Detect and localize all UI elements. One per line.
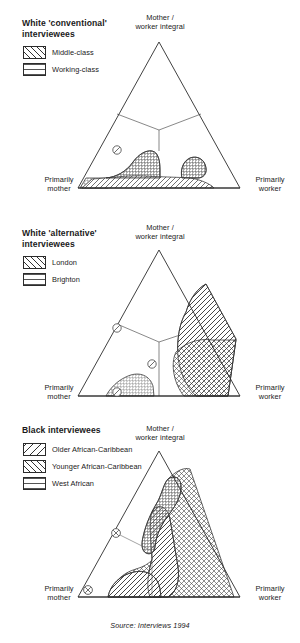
partition-lines: [117, 114, 201, 151]
region-working-class-mound-right-overlay: [181, 157, 206, 178]
ternary-diagram-black: [0, 417, 300, 617]
outlier-marker: [148, 360, 156, 368]
outlier-marker: [84, 586, 93, 595]
outlier-marker: [113, 388, 121, 396]
panel-white-conventional: White 'conventional' interviewees Middle…: [0, 0, 300, 212]
panel-white-alternative: White 'alternative' interviewees London …: [0, 212, 300, 417]
outlier-marker: [112, 529, 121, 538]
ternary-diagram-alternative: [0, 212, 300, 417]
ternary-diagram-conventional: [0, 0, 300, 212]
region-london-overlay: [178, 284, 236, 396]
outlier-marker: [113, 324, 121, 332]
source-note: Source: Interviews 1994: [0, 621, 300, 630]
region-working-class-mound-left-overlay: [106, 151, 160, 178]
panel-black-interviewees: Black interviewees Older African-Caribbe…: [0, 417, 300, 617]
outlier-marker: [113, 146, 121, 154]
